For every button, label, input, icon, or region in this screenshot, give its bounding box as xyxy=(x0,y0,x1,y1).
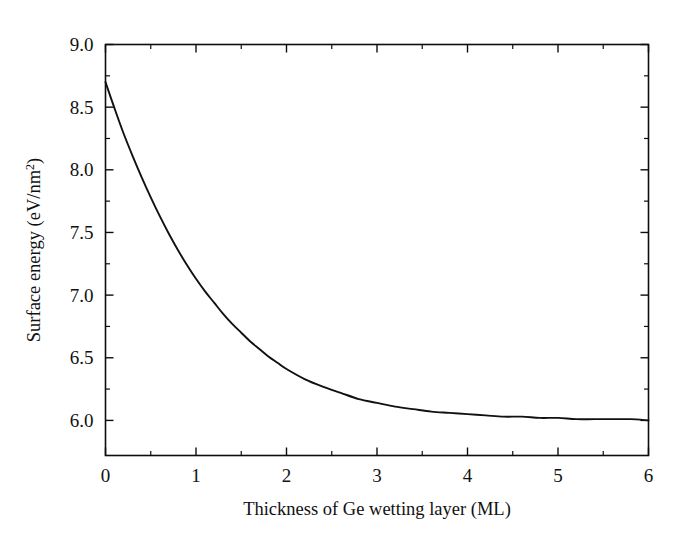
y-tick-label-4: 8.0 xyxy=(70,159,94,180)
y-tick-label-3: 7.5 xyxy=(70,222,94,243)
chart-figure: 6.06.57.07.58.08.59.0 0123456 Thickness … xyxy=(0,0,682,545)
y-axis-ticks xyxy=(106,45,649,421)
y-axis-title: Surface energy (eV/nm2) xyxy=(23,158,45,342)
x-tick-label-5: 5 xyxy=(553,465,563,486)
y-axis-title-suffix: ) xyxy=(24,158,45,164)
x-tick-label-3: 3 xyxy=(372,465,382,486)
x-tick-label-1: 1 xyxy=(191,465,201,486)
plot-frame xyxy=(106,45,649,456)
surface-energy-curve xyxy=(106,82,649,420)
x-axis-tick-labels: 0123456 xyxy=(101,465,654,486)
y-axis-title-prefix: Surface energy (eV/nm xyxy=(24,169,45,342)
y-tick-label-0: 6.0 xyxy=(70,410,94,431)
x-axis-ticks xyxy=(106,45,649,456)
y-axis-tick-labels: 6.06.57.07.58.08.59.0 xyxy=(70,34,94,431)
figure-page: 6.06.57.07.58.08.59.0 0123456 Thickness … xyxy=(0,0,682,545)
y-tick-label-1: 6.5 xyxy=(70,347,94,368)
x-axis-title: Thickness of Ge wetting layer (ML) xyxy=(243,499,511,520)
y-tick-label-2: 7.0 xyxy=(70,285,94,306)
x-tick-label-2: 2 xyxy=(282,465,292,486)
x-tick-label-6: 6 xyxy=(644,465,654,486)
chart-canvas: 6.06.57.07.58.08.59.0 0123456 Thickness … xyxy=(0,0,682,545)
y-tick-label-6: 9.0 xyxy=(70,34,94,55)
y-tick-label-5: 8.5 xyxy=(70,97,94,118)
x-tick-label-4: 4 xyxy=(463,465,473,486)
x-tick-label-0: 0 xyxy=(101,465,111,486)
